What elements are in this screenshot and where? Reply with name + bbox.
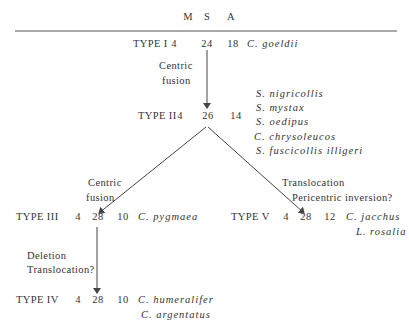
karyotype-evolution-diagram: M S A TYPE I 4 24 18 C. goeldii Centric … (0, 0, 409, 329)
type-5-label: TYPE V (231, 211, 270, 223)
type-2-species-5: S. fuscicollis illigeri (256, 145, 363, 157)
type-2-species-2: S. mystax (256, 102, 305, 114)
type-2-m: 4 (177, 110, 183, 122)
type-5-s: 28 (300, 211, 311, 223)
type-3-m: 4 (75, 211, 81, 223)
type-4-a: 10 (117, 294, 128, 306)
type-3-species: C. pygmaea (138, 211, 198, 223)
type-2-species-1: S. nigricollis (256, 88, 324, 100)
transition-3-line-1: Translocation (282, 177, 345, 189)
transition-4-line-2: Translocation? (27, 264, 95, 276)
column-header-a: A (227, 11, 235, 23)
type-2-species-4: C. chrysoleucos (254, 131, 336, 143)
type-1-s: 24 (201, 38, 212, 50)
type-4-species-1: C. humeralifer (138, 294, 214, 306)
type-2-s: 26 (202, 110, 213, 122)
type-5-a: 12 (324, 211, 335, 223)
transition-2-line-2: fusion (86, 192, 115, 204)
column-header-s: S (204, 11, 210, 23)
transition-1-line-2: fusion (162, 75, 191, 87)
type-1-a: 18 (227, 38, 238, 50)
column-header-m: M (183, 11, 193, 23)
transition-2-line-1: Centric (88, 177, 122, 189)
arrow-type2-to-type3 (99, 127, 206, 213)
type-5-species-2: L. rosalia (356, 226, 406, 238)
type-4-label: TYPE IV (16, 294, 59, 306)
type-1-species: C. goeldii (247, 38, 298, 50)
type-2-species-3: S. oedipus (256, 116, 309, 128)
type-3-label: TYPE III (16, 211, 59, 223)
type-2-a: 14 (230, 110, 241, 122)
type-5-m: 4 (283, 211, 289, 223)
type-3-s: 28 (92, 211, 103, 223)
type-4-s: 28 (92, 294, 103, 306)
transition-4-line-1: Deletion (27, 250, 66, 262)
type-1-label: TYPE I (133, 38, 168, 50)
type-4-species-2: C. argentatus (141, 309, 211, 321)
transition-1-line-1: Centric (159, 60, 193, 72)
type-5-species-1: C. jacchus (346, 211, 400, 223)
type-2-label: TYPE II (138, 110, 177, 122)
type-1-m: 4 (171, 38, 177, 50)
type-4-m: 4 (75, 294, 81, 306)
type-3-a: 10 (117, 211, 128, 223)
transition-3-line-2: Pericentric inversion? (292, 192, 393, 204)
